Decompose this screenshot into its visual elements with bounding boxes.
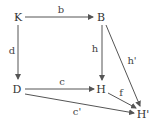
edge-label-c-prime: c'	[73, 107, 81, 117]
edge-label-f: f	[119, 88, 123, 98]
edge-label-d: d	[9, 46, 15, 56]
node-d: D	[13, 84, 22, 95]
edge-label-c: c	[59, 77, 65, 87]
edge-label-h: h	[92, 44, 98, 54]
node-b: B	[97, 12, 105, 23]
node-h: H	[96, 84, 106, 95]
node-k: K	[14, 12, 22, 23]
node-h-prime: H'	[137, 109, 150, 120]
edge-label-b: b	[58, 5, 64, 15]
edge-label-h-prime: h'	[127, 56, 136, 66]
